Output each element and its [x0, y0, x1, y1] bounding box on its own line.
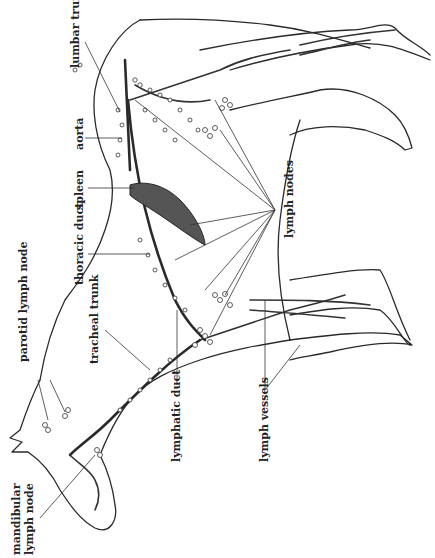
lumbar-vessel — [130, 50, 290, 100]
hind-leg-2 — [230, 89, 412, 150]
front-leg-3 — [290, 333, 412, 360]
horse-rump-outline — [140, 19, 370, 48]
lumbar-vessel-2 — [135, 85, 210, 102]
label-parotid-lymph-node: parotid lymph node — [18, 242, 30, 362]
leader-parotid-1 — [38, 380, 48, 420]
jaw-vessel — [70, 455, 99, 510]
label-thoracic-duct: thoracic duct — [74, 203, 86, 285]
horse-illustration — [0, 0, 435, 558]
leader-parotid-2 — [50, 380, 65, 412]
label-lymph-vessels: lymph vessels — [259, 377, 271, 462]
label-mandibular-line1: mandibular — [11, 484, 23, 555]
spleen-shape — [130, 183, 205, 245]
leader-tracheal-trunk — [105, 330, 150, 370]
leader-lumbar-trunk — [85, 42, 120, 112]
label-lymphatic-duct: lymphatic duct — [171, 370, 183, 462]
label-tracheal-trunk: tracheal trunk — [89, 275, 101, 364]
leader-mandibular — [40, 455, 95, 518]
label-mandibular-line2: lymph node — [24, 483, 36, 555]
label-aorta: aorta — [74, 118, 86, 150]
horse-lymphatic-diagram: lumbar trunk aorta spleen thoracic duct … — [0, 0, 435, 558]
front-leg-2 — [290, 308, 410, 345]
label-lymph-nodes: lymph nodes — [284, 160, 296, 238]
lymph-node-dots — [43, 63, 233, 458]
label-lumbar-trunk: lumbar trunk — [70, 0, 82, 68]
front-leg-vessel-2 — [250, 310, 345, 318]
